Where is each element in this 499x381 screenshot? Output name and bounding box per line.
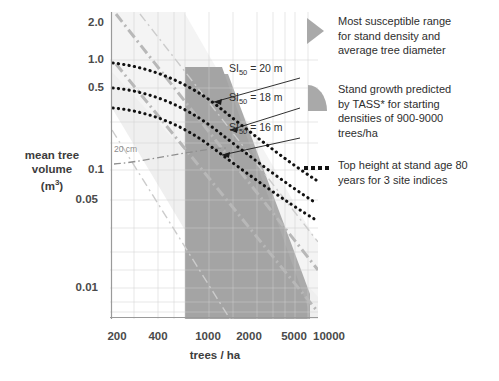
legend-item-most-susceptible: Most susceptible range for stand density… — [304, 14, 496, 58]
y-tick-0.5: 0.5 — [58, 81, 104, 93]
annotation-si50-18m-suffix: = 18 m — [247, 91, 282, 103]
y-tick-0.1: 0.1 — [58, 163, 104, 175]
figure-container: mean tree volume (m3) 2.0 1.0 0.5 0.1 0.… — [0, 0, 499, 381]
y-tick-0.05: 0.05 — [52, 193, 98, 205]
annotation-si50-20m-prefix: SI — [229, 62, 239, 74]
annotation-si50-16m: SI50 = 16 m — [229, 121, 283, 136]
legend-most-susceptible-line3: average tree diameter — [338, 44, 446, 56]
dotted-line-icon — [304, 161, 330, 175]
legend-tass-line4: trees/ha — [338, 127, 378, 139]
annotation-si50-16m-sub: 50 — [239, 127, 247, 136]
legend-tass-line2: by TASS* for starting — [338, 98, 440, 110]
annotation-si50-20m-suffix: = 20 m — [247, 62, 282, 74]
y-axis-title-line1: mean tree — [25, 149, 79, 161]
y-axis-title-line3: (m — [41, 180, 55, 192]
legend-text-most-susceptible: Most susceptible range for stand density… — [338, 14, 451, 58]
dot-2 — [311, 166, 315, 170]
legend-tass-line3: densities of 900-9000 — [338, 112, 443, 124]
legend-most-susceptible-line2: for stand density and — [338, 30, 440, 42]
annotation-si50-18m: SI50 = 18 m — [229, 91, 283, 106]
annotation-si50-16m-suffix: = 16 m — [247, 121, 282, 133]
legend-most-susceptible-line1: Most susceptible range — [338, 15, 451, 27]
annotation-si50-20m: SI50 = 20 m — [229, 62, 283, 77]
annotation-si50-20m-sub: 50 — [239, 68, 247, 77]
legend-top-height-line2: years for 3 site indices — [338, 174, 447, 186]
legend-swatch-dots — [304, 149, 330, 183]
y-tick-2.0: 2.0 — [58, 16, 104, 28]
y-tick-0.01: 0.01 — [52, 281, 98, 293]
y-tick-1.0: 1.0 — [58, 53, 104, 65]
annotation-20cm-diameter: 20 cm — [114, 144, 137, 154]
quarter-circle-icon — [308, 85, 327, 111]
legend-item-top-height: Top height at stand age 80 years for 3 s… — [304, 149, 496, 187]
legend-item-tass-growth: Stand growth predicted by TASS* for star… — [304, 82, 496, 140]
legend-swatch-triangle — [304, 14, 330, 48]
plot-area — [110, 12, 318, 319]
y-axis-title-line3-end: ) — [59, 180, 63, 192]
dot-4 — [325, 166, 329, 170]
x-tick-400: 400 — [132, 330, 184, 342]
dot-1 — [304, 166, 308, 170]
triangle-icon — [307, 18, 324, 44]
legend-swatch-wedge — [304, 82, 330, 116]
x-tick-10000: 10000 — [303, 330, 355, 342]
legend-top-height-line1: Top height at stand age 80 — [338, 159, 468, 171]
annotation-si50-18m-sub: 50 — [239, 97, 247, 106]
legend-tass-line1: Stand growth predicted — [338, 83, 451, 95]
x-axis-title: trees / ha — [150, 349, 280, 361]
annotation-si50-18m-prefix: SI — [229, 91, 239, 103]
legend-text-tass-growth: Stand growth predicted by TASS* for star… — [338, 82, 451, 140]
annotation-si50-16m-prefix: SI — [229, 121, 239, 133]
dot-3 — [318, 166, 322, 170]
legend-text-top-height: Top height at stand age 80 years for 3 s… — [338, 149, 468, 187]
